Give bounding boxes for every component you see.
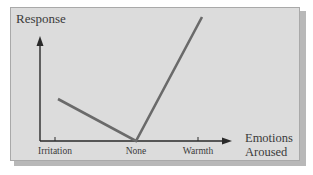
tick-label-warmth: Warmth (183, 146, 213, 156)
response-line (58, 17, 202, 141)
x-axis-label-line2: Aroused (245, 145, 293, 159)
x-axis-arrow-icon (222, 138, 232, 145)
x-axis-label-line1: Emotions (245, 131, 293, 145)
tick-label-none: None (126, 146, 147, 156)
y-axis-arrow-icon (37, 36, 44, 46)
tick-label-irritation: Irritation (38, 146, 72, 156)
y-axis-label: Response (16, 11, 66, 27)
x-axis-label: Emotions Aroused (245, 131, 293, 159)
